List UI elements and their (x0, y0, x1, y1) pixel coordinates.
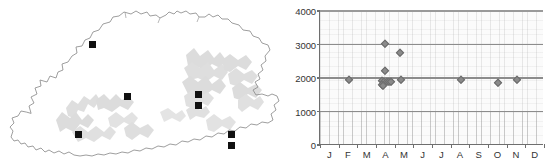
xtick-label-A-3: A (382, 149, 388, 160)
xtick-mark-3 (376, 144, 377, 148)
xtick-label-O-9: O (494, 149, 501, 160)
xtick-label-S-8: S (475, 149, 481, 160)
xtick-label-D-11: D (531, 149, 538, 160)
data-point (381, 40, 390, 49)
distribution-map-panel (0, 0, 285, 167)
ytick-mark-4000 (317, 10, 321, 11)
ytick-label-4000: 4000 (295, 6, 316, 17)
xtick-mark-5 (413, 144, 414, 148)
map-marker-loc-5 (75, 131, 82, 138)
xtick-label-J-0: J (327, 149, 332, 160)
xtick-mark-2 (357, 144, 358, 148)
xtick-label-J-6: J (439, 149, 444, 160)
xtick-mark-1 (339, 144, 340, 148)
ytick-label-1000: 1000 (295, 106, 316, 117)
xtick-label-A-7: A (457, 149, 463, 160)
map-marker-loc-1 (89, 41, 96, 48)
gridline-1000 (320, 111, 543, 112)
xtick-label-N-10: N (513, 149, 520, 160)
ytick-label-2000: 2000 (295, 73, 316, 84)
data-point (494, 78, 503, 87)
map-marker-loc-7 (228, 142, 235, 149)
gridline-4000 (320, 10, 543, 11)
plot-area: 01000200030004000 JFMAMJJASOND (319, 11, 543, 145)
xtick-mark-6 (432, 144, 433, 148)
bhutan-border-inner-detail (125, 12, 199, 23)
minor-gridlines-lower-band (320, 111, 543, 145)
xtick-mark-0 (320, 144, 321, 148)
xtick-mark-4 (395, 144, 396, 148)
altitude-month-scatter-panel: 01000200030004000 JFMAMJJASOND (285, 0, 559, 167)
ytick-label-3000: 3000 (295, 39, 316, 50)
xtick-mark-8 (469, 144, 470, 148)
ytick-mark-2000 (317, 77, 321, 78)
gridline-2000 (320, 77, 543, 78)
map-marker-loc-4 (195, 102, 202, 109)
xtick-mark-7 (451, 144, 452, 148)
map-marker-loc-6 (228, 131, 235, 138)
xtick-mark-end (544, 144, 545, 148)
map-marker-loc-2 (124, 93, 131, 100)
xtick-mark-11 (525, 144, 526, 148)
ytick-label-0: 0 (311, 140, 316, 151)
xtick-label-M-4: M (400, 149, 408, 160)
ytick-mark-1000 (317, 111, 321, 112)
xtick-mark-9 (488, 144, 489, 148)
xtick-label-J-5: J (420, 149, 425, 160)
xtick-label-M-2: M (363, 149, 371, 160)
map-relief-shading (56, 48, 264, 142)
data-point (381, 66, 390, 75)
bhutan-map-svg (0, 0, 285, 167)
map-marker-loc-3 (195, 91, 202, 98)
xtick-label-F-1: F (345, 149, 351, 160)
figure-root: 01000200030004000 JFMAMJJASOND (0, 0, 559, 167)
data-point (396, 48, 405, 57)
gridline-3000 (320, 44, 543, 45)
xtick-mark-10 (507, 144, 508, 148)
ytick-mark-3000 (317, 44, 321, 45)
